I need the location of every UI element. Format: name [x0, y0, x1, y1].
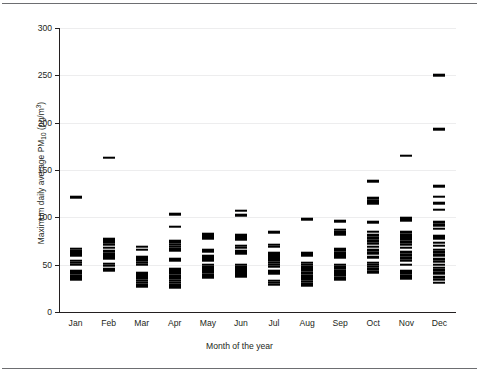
y-tick-mark: [55, 312, 59, 313]
data-point: [433, 128, 445, 131]
data-point: [400, 260, 412, 263]
data-point: [433, 195, 445, 198]
x-axis-title: Month of the year: [0, 341, 479, 351]
x-tick-label-mar: Mar: [134, 318, 149, 328]
y-tick-label: 100: [38, 212, 52, 222]
x-tick-label-nov: Nov: [399, 318, 414, 328]
data-point: [103, 257, 115, 260]
data-point: [367, 202, 379, 205]
data-point: [367, 221, 379, 224]
data-point: [433, 208, 445, 211]
data-point: [202, 259, 214, 262]
data-point: [235, 238, 247, 241]
top-divider: [2, 3, 477, 4]
data-point: [367, 252, 379, 255]
data-point: [268, 265, 280, 268]
y-axis-title-prefix: Maximum daily average PM: [36, 140, 46, 245]
data-point: [202, 237, 214, 240]
y-tick-label: 50: [42, 260, 52, 270]
x-tick-label-oct: Oct: [367, 318, 380, 328]
gridline: [60, 75, 456, 76]
gridline: [60, 217, 456, 218]
data-point: [334, 279, 346, 282]
gridline: [60, 28, 456, 29]
x-tick-label-aug: Aug: [299, 318, 314, 328]
x-tick-label-jun: Jun: [234, 318, 248, 328]
y-tick-mark: [55, 28, 59, 29]
y-tick-label: 300: [38, 23, 52, 33]
x-tick-label-sep: Sep: [333, 318, 348, 328]
data-point: [301, 218, 313, 221]
data-point: [268, 245, 280, 248]
data-point: [400, 155, 412, 158]
data-point: [400, 263, 412, 266]
data-point: [367, 271, 379, 274]
data-point: [400, 246, 412, 249]
y-axis-title-superscript: 3: [35, 105, 42, 109]
x-tick-label-feb: Feb: [101, 318, 116, 328]
data-point: [136, 285, 148, 288]
data-point: [268, 272, 280, 275]
data-point: [367, 256, 379, 259]
y-axis-title-subscript: 10: [40, 132, 47, 139]
data-point: [433, 224, 445, 227]
data-point: [367, 180, 379, 183]
gridline: [60, 170, 456, 171]
data-point: [433, 272, 445, 275]
data-point: [301, 284, 313, 287]
x-axis-line: [59, 312, 456, 313]
y-tick-label: 200: [38, 118, 52, 128]
data-point: [268, 231, 280, 234]
x-tick-label-may: May: [200, 318, 216, 328]
x-tick-label-dec: Dec: [432, 318, 447, 328]
data-point: [103, 246, 115, 249]
x-tick-label-jul: Jul: [269, 318, 280, 328]
x-tick-label-apr: Apr: [168, 318, 181, 328]
y-tick-mark: [55, 217, 59, 218]
data-point: [235, 252, 247, 255]
y-tick-mark: [55, 123, 59, 124]
data-point: [433, 185, 445, 188]
data-point: [103, 264, 115, 267]
data-point: [400, 277, 412, 280]
data-point: [103, 156, 115, 159]
data-point: [70, 279, 82, 282]
data-point: [433, 237, 445, 240]
data-point: [70, 263, 82, 266]
x-tick-label-jan: Jan: [69, 318, 83, 328]
data-point: [202, 276, 214, 279]
data-point: [268, 283, 280, 286]
y-tick-label: 250: [38, 70, 52, 80]
data-point: [367, 230, 379, 233]
data-point: [169, 286, 181, 289]
data-point: [433, 202, 445, 205]
data-point: [103, 269, 115, 272]
data-point: [169, 249, 181, 252]
data-point: [301, 254, 313, 257]
data-point: [169, 226, 181, 229]
chart-figure: Maximum daily average PM10 (µg/m3) 05010…: [0, 8, 479, 364]
data-point: [334, 256, 346, 259]
data-point: [433, 281, 445, 284]
data-point: [169, 213, 181, 216]
y-tick-label: 0: [47, 307, 52, 317]
data-point: [433, 254, 445, 257]
data-point: [235, 275, 247, 278]
data-point: [433, 227, 445, 230]
data-point: [235, 246, 247, 249]
data-point: [235, 209, 247, 212]
data-point: [70, 196, 82, 199]
data-point: [136, 263, 148, 266]
y-tick-mark: [55, 75, 59, 76]
bottom-divider: [2, 368, 477, 369]
data-point: [433, 74, 445, 77]
data-point: [334, 220, 346, 223]
plot-area: 050100150200250300 JanFebMarAprMayJunJul…: [59, 28, 456, 312]
data-point: [400, 219, 412, 222]
data-point: [334, 233, 346, 236]
data-point: [202, 250, 214, 253]
data-point: [136, 248, 148, 251]
data-point: [169, 260, 181, 263]
y-tick-label: 150: [38, 165, 52, 175]
data-point: [70, 254, 82, 257]
